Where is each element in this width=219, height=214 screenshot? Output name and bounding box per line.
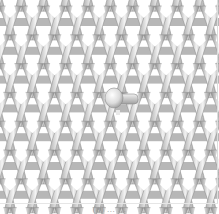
- figure-caption: (a) ... ...: [0, 205, 219, 214]
- figure-frame: [0, 0, 218, 204]
- knit-fabric-diagram: (a) ... ...: [0, 0, 219, 214]
